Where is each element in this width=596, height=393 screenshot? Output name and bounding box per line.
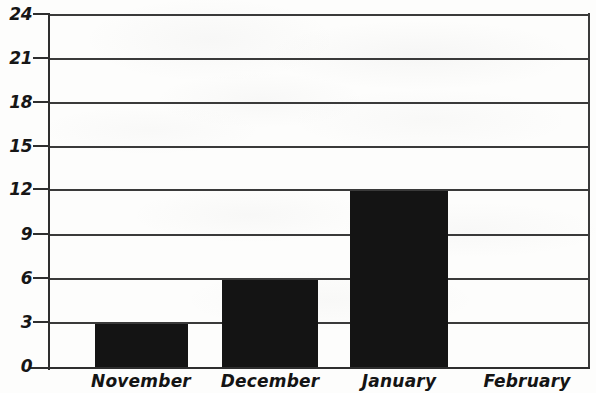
- y-tick-mark-0: [33, 367, 49, 369]
- y-tick-label-12: 12: [2, 181, 32, 198]
- y-tick-label-3: 3: [2, 314, 32, 331]
- x-tick-label-january: January: [335, 371, 463, 391]
- y-tick-mark-3: [33, 321, 49, 323]
- plot-right-border: [588, 13, 590, 369]
- y-axis-line: [48, 13, 50, 370]
- bar-group: [48, 14, 590, 368]
- y-tick-mark-15: [33, 145, 49, 147]
- bar-january[interactable]: [350, 191, 448, 368]
- x-axis-line: [30, 367, 590, 369]
- bar-chart-figure: 24 21 18 15 12 9 6 3 0 November December…: [0, 0, 596, 393]
- y-tick-mark-24: [33, 13, 49, 15]
- y-tick-label-6: 6: [2, 270, 32, 287]
- y-tick-mark-9: [33, 233, 49, 235]
- x-tick-label-december: December: [206, 371, 334, 391]
- y-axis-tick-labels: 24 21 18 15 12 9 6 3 0: [0, 0, 32, 393]
- y-tick-label-9: 9: [2, 226, 32, 243]
- x-tick-label-november: November: [77, 371, 205, 391]
- y-tick-label-21: 21: [2, 50, 32, 67]
- y-tick-mark-18: [33, 101, 49, 103]
- x-tick-label-february: February: [463, 371, 591, 391]
- y-tick-label-0: 0: [2, 358, 32, 375]
- x-axis-tick-labels: November December January February: [48, 371, 590, 393]
- y-tick-label-18: 18: [2, 94, 32, 111]
- y-tick-label-15: 15: [2, 138, 32, 155]
- y-tick-label-24: 24: [2, 6, 32, 23]
- y-tick-mark-6: [33, 277, 49, 279]
- y-tick-mark-12: [33, 188, 49, 190]
- y-tick-mark-21: [33, 57, 49, 59]
- bar-december[interactable]: [222, 280, 318, 369]
- bar-november[interactable]: [95, 324, 188, 368]
